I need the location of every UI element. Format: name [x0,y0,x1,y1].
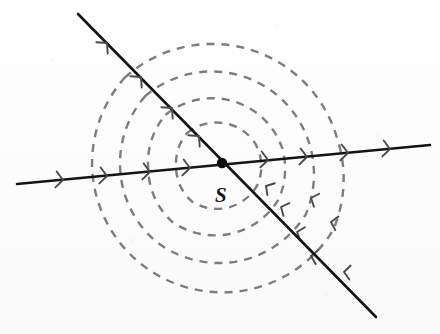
wavefront-arrow-icon [343,265,350,279]
descending-ray-line [78,14,376,317]
wavefront-arrow-icon [278,201,289,216]
wavefront-arc-2 [143,93,289,240]
source-point-dot [217,158,227,168]
source-label: S [215,185,227,206]
wavefront-arrow-icon [262,180,275,195]
figure-root: S [0,0,440,334]
diagram-canvas [0,0,440,334]
wavefront-group [84,35,351,301]
wavefront-arc-3 [114,65,320,270]
wavefront-arrow-group [262,180,350,279]
wavefront-arc-4 [84,35,351,301]
